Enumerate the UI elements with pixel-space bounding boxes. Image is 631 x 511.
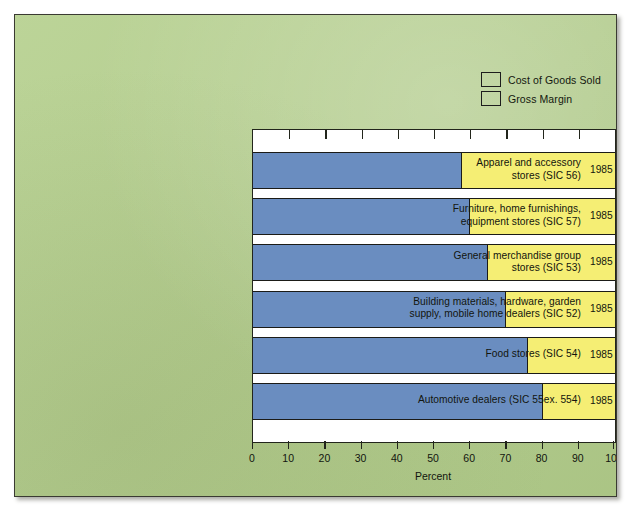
tick-mark — [542, 441, 543, 449]
tick-mark — [613, 441, 614, 449]
category-label-text: Automotive dealers (SIC 55ex. 554) — [418, 394, 581, 406]
tick-mark — [252, 441, 253, 449]
x-tick-label: 20 — [319, 452, 331, 464]
x-tick-label: 0 — [249, 452, 255, 464]
tick-mark — [434, 130, 435, 139]
category-label-row: Furniture, home furnishings,equipment st… — [384, 197, 616, 234]
category-year-label: 1985 — [590, 395, 616, 406]
legend-swatch-gross-margin — [481, 91, 501, 106]
category-label-text: Building materials, hardware, gardensupp… — [410, 296, 581, 321]
legend-item-gross-margin: Gross Margin — [481, 91, 601, 106]
x-tick-label: 90 — [572, 452, 584, 464]
category-label-row: Food stores (SIC 54)1985 — [384, 336, 616, 373]
category-label-row: Automotive dealers (SIC 55ex. 554)1985 — [384, 382, 616, 419]
x-tick-label: 50 — [427, 452, 439, 464]
tick-mark — [505, 441, 506, 449]
x-axis-title: Percent — [252, 470, 614, 482]
tick-mark — [543, 130, 544, 139]
chart-legend: Cost of Goods Sold Gross Margin — [481, 72, 601, 106]
tick-mark — [469, 441, 470, 449]
legend-label-cost-of-goods-sold: Cost of Goods Sold — [508, 74, 601, 86]
tick-mark — [324, 441, 325, 449]
x-tick-label: 100 — [605, 452, 617, 464]
category-label-row: General merchandise groupstores (SIC 53)… — [384, 243, 616, 280]
category-label-text: Apparel and accessorystores (SIC 56) — [476, 157, 581, 182]
tick-mark — [397, 441, 398, 449]
category-year-label: 1985 — [590, 210, 616, 221]
category-year-label: 1985 — [590, 164, 616, 175]
tick-mark — [578, 441, 579, 449]
tick-mark — [398, 130, 399, 139]
x-tick-label: 10 — [282, 452, 294, 464]
category-label-row: Apparel and accessorystores (SIC 56)1985 — [384, 151, 616, 188]
tick-mark — [361, 441, 362, 449]
legend-label-gross-margin: Gross Margin — [508, 93, 572, 105]
x-tick-label: 60 — [463, 452, 475, 464]
x-tick-label: 80 — [536, 452, 548, 464]
x-tick-label: 40 — [391, 452, 403, 464]
x-tick-label: 70 — [500, 452, 512, 464]
legend-swatch-cost-of-goods-sold — [481, 72, 501, 87]
tick-mark — [289, 130, 290, 139]
tick-mark — [288, 441, 289, 449]
x-axis-ticks — [252, 441, 614, 450]
tick-mark — [325, 130, 326, 139]
top-tick-strip — [253, 130, 615, 152]
x-axis-tick-labels: 0102030405060708090100 — [252, 452, 614, 466]
category-year-label: 1985 — [590, 256, 616, 267]
tick-mark — [433, 441, 434, 449]
legend-item-cost-of-goods-sold: Cost of Goods Sold — [481, 72, 601, 87]
category-year-label: 1985 — [590, 303, 616, 314]
x-tick-label: 30 — [355, 452, 367, 464]
tick-mark — [579, 130, 580, 139]
category-label-text: General merchandise groupstores (SIC 53) — [453, 250, 581, 275]
category-label-text: Food stores (SIC 54) — [485, 348, 581, 360]
tick-mark — [362, 130, 363, 139]
category-label-row: Building materials, hardware, gardensupp… — [384, 290, 616, 327]
tick-mark — [506, 130, 507, 139]
category-label-text: Furniture, home furnishings,equipment st… — [453, 203, 581, 228]
tick-mark — [470, 130, 471, 139]
chart-figure: Cost of Goods Sold Gross Margin 01020304… — [14, 14, 617, 497]
category-year-label: 1985 — [590, 349, 616, 360]
